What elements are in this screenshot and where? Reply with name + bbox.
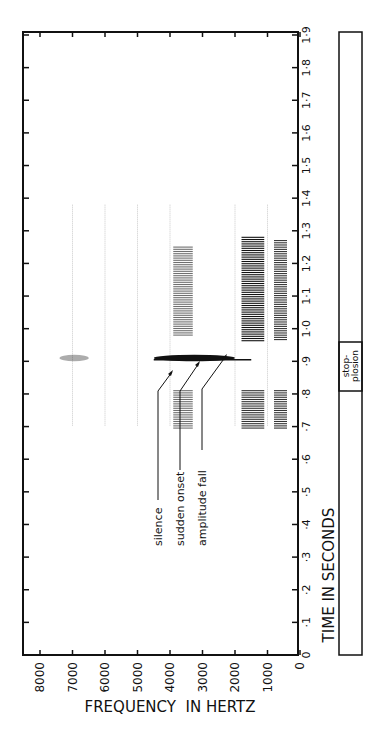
energy-region bbox=[274, 241, 287, 340]
time-tick-label: 1·7 bbox=[300, 92, 313, 110]
frequency-axis-title: FREQUENCY IN HERTZ bbox=[85, 698, 256, 716]
energy-region bbox=[60, 355, 89, 362]
time-tick-label: 1·5 bbox=[300, 157, 313, 175]
time-tick-label: ·3 bbox=[300, 552, 313, 563]
frequency-tick-label: 5000 bbox=[131, 662, 145, 693]
time-tick-label: ·7 bbox=[300, 421, 313, 432]
spectrogram-energy bbox=[60, 237, 288, 428]
frequency-tick-label: 3000 bbox=[196, 662, 210, 693]
frequency-gridlines bbox=[73, 205, 268, 427]
time-tick-label: 1·3 bbox=[300, 222, 313, 240]
frequency-tick-label: 8000 bbox=[33, 662, 47, 693]
arrow-head-icon bbox=[195, 361, 200, 367]
arrow-line bbox=[202, 356, 226, 450]
frequency-tick-label: 1000 bbox=[261, 662, 275, 693]
arrow-line bbox=[180, 363, 199, 470]
time-tick-label: 1·1 bbox=[300, 287, 313, 305]
time-tick-label: 1·9 bbox=[300, 26, 313, 44]
frequency-tick-label: 0 bbox=[293, 662, 307, 670]
segment-bar bbox=[339, 32, 362, 655]
annotation-silence: silence bbox=[152, 370, 173, 546]
energy-region bbox=[274, 391, 287, 428]
time-tick-label: 0 bbox=[300, 652, 313, 659]
time-tick-labels: 0·1·2·3·4·5·6·7·8·91·01·11·21·31·41·51·6… bbox=[300, 26, 313, 658]
frequency-tick-labels: 800070006000500040003000200010000 bbox=[33, 662, 307, 693]
axis-ticks bbox=[23, 32, 300, 655]
segment-label-plosion: plosion bbox=[350, 350, 360, 382]
time-tick-label: ·2 bbox=[300, 584, 313, 595]
frequency-tick-label: 7000 bbox=[66, 662, 80, 693]
annotation-label: silence bbox=[152, 507, 165, 546]
energy-region bbox=[173, 247, 193, 335]
frequency-tick-label: 6000 bbox=[98, 662, 112, 693]
time-tick-label: 1·4 bbox=[300, 189, 313, 207]
arrow-head-icon bbox=[168, 370, 173, 376]
spectrogram-chart: 800070006000500040003000200010000 0·1·2·… bbox=[0, 0, 373, 730]
time-tick-label: ·8 bbox=[300, 389, 313, 400]
time-tick-label: ·5 bbox=[300, 487, 313, 498]
time-tick-label: ·6 bbox=[300, 454, 313, 465]
annotation-amplitude-fall: amplitude fall bbox=[196, 354, 227, 546]
time-axis-title: TIME IN SECONDS bbox=[320, 508, 338, 644]
time-tick-label: ·1 bbox=[300, 617, 313, 628]
energy-region bbox=[242, 237, 265, 340]
plot-frame bbox=[23, 32, 298, 655]
annotation-label: sudden onset bbox=[174, 471, 187, 546]
annotation-label: amplitude fall bbox=[196, 470, 209, 546]
time-tick-label: 1·0 bbox=[300, 320, 313, 338]
time-tick-label: 1·8 bbox=[300, 59, 313, 77]
time-tick-label: 1·6 bbox=[300, 124, 313, 142]
time-tick-label: ·4 bbox=[300, 519, 313, 530]
frequency-tick-label: 4000 bbox=[163, 662, 177, 693]
time-tick-label: ·9 bbox=[300, 356, 313, 367]
energy-region bbox=[173, 391, 193, 428]
frequency-tick-label: 2000 bbox=[228, 662, 242, 693]
time-tick-label: 1·2 bbox=[300, 255, 313, 273]
energy-region bbox=[242, 391, 265, 428]
